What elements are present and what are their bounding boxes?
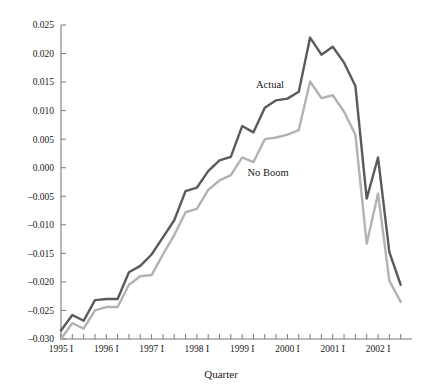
y-tick-label: –0.025 (27, 306, 54, 316)
y-tick-label: 0.015 (33, 77, 55, 87)
y-tick-label: 0.010 (33, 106, 55, 116)
x-tick-label: 1999 I (230, 344, 255, 354)
y-axis: 0.0250.0200.0150.0100.0050.000–0.005–0.0… (27, 20, 66, 344)
y-tick-label: –0.015 (27, 249, 54, 259)
y-tick-label: 0.025 (33, 20, 55, 30)
y-tick-label: 0.020 (33, 49, 55, 59)
x-axis-title: Quarter (204, 368, 238, 380)
y-tick-label: –0.010 (27, 220, 54, 230)
line-chart: 0.0250.0200.0150.0100.0050.000–0.005–0.0… (0, 0, 441, 389)
x-tick-label: 2000 I (275, 344, 300, 354)
y-tick-label: 0.000 (33, 163, 55, 173)
chart-figure: 0.0250.0200.0150.0100.0050.000–0.005–0.0… (0, 0, 441, 389)
x-tick-label: 1995 I (49, 344, 74, 354)
y-tick-label: –0.030 (27, 334, 54, 344)
x-tick-label: 2001 I (320, 344, 345, 354)
x-axis: 1995 I1996 I1997 I1998 I1999 I2000 I2001… (49, 334, 412, 354)
series-lines (61, 38, 401, 339)
y-tick-label: –0.005 (27, 192, 54, 202)
series-label-actual: Actual (256, 79, 284, 90)
x-tick-label: 1998 I (185, 344, 210, 354)
y-tick-label: –0.020 (27, 277, 54, 287)
x-tick-label: 1997 I (139, 344, 164, 354)
series-label-no-boom: No Boom (247, 167, 288, 178)
x-tick-label: 1996 I (94, 344, 119, 354)
series-line-no-boom (61, 82, 401, 339)
x-tick-label: 2002 I (366, 344, 391, 354)
series-line-actual (61, 38, 401, 331)
y-tick-label: 0.005 (33, 135, 55, 145)
